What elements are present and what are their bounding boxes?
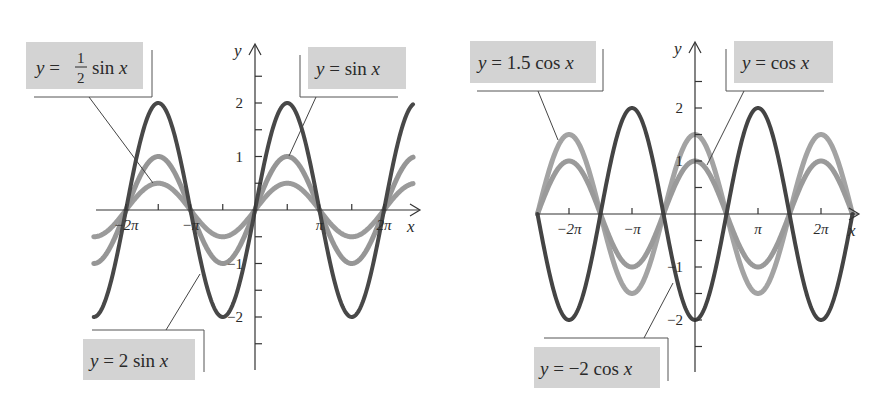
label-text: y = sin x — [314, 58, 381, 79]
sine-chart: −2π−ππ2π 21−1−2 x y y = 1 2 sin x y = si… — [26, 41, 420, 380]
y-tick-label: 1 — [236, 149, 244, 165]
y-tick-label: −1 — [667, 259, 683, 275]
label-text: y = — [34, 57, 60, 78]
fraction-denominator: 2 — [77, 70, 85, 86]
x-tick-label: π — [316, 217, 324, 233]
label-text: y = 2 sin x — [88, 350, 169, 371]
x-tick-label: π — [754, 221, 762, 237]
x-tick-label: −π — [623, 221, 641, 237]
y-tick-label: 2 — [236, 95, 244, 111]
label-text: y = cos x — [740, 52, 810, 73]
x-axis-label: x — [406, 217, 415, 236]
y-tick-label: 2 — [676, 100, 684, 116]
leader-line — [644, 283, 673, 338]
label-one-point-five-cos-x: y = 1.5 cos x — [470, 41, 603, 140]
x-tick-label: −2π — [556, 221, 582, 237]
y-tick-label: −2 — [227, 309, 243, 325]
label-func: sin x — [92, 57, 128, 78]
x-tick-label: −π — [182, 217, 200, 233]
label-cos-x: y = cos x — [707, 41, 833, 165]
leader-line — [166, 274, 200, 330]
y-axis-label: y — [232, 41, 242, 60]
x-tick-label: 2π — [813, 221, 829, 237]
cosine-chart: −2π−ππ2π 21−1−2 x y y = 1.5 cos x y = co… — [470, 39, 859, 388]
x-tick-label: −2π — [113, 217, 139, 233]
fraction-numerator: 1 — [77, 50, 85, 66]
label-two-sin-x: y = 2 sin x — [83, 274, 204, 380]
y-tick-label: −2 — [667, 312, 683, 328]
label-text: y = 1.5 cos x — [476, 52, 574, 73]
x-axis-label: x — [847, 221, 856, 240]
figure: −2π−ππ2π 21−1−2 x y y = 1 2 sin x y = si… — [0, 0, 885, 406]
y-axis-label: y — [672, 39, 682, 58]
leader-line — [538, 91, 558, 140]
axes: −2π−ππ2π 21−1−2 x y — [537, 39, 859, 372]
label-text: y = −2 cos x — [538, 358, 633, 379]
y-tick-label: −1 — [227, 256, 243, 272]
y-tick-label: 1 — [676, 153, 684, 169]
leader-line — [89, 97, 153, 183]
x-tick-label: 2π — [376, 217, 392, 233]
